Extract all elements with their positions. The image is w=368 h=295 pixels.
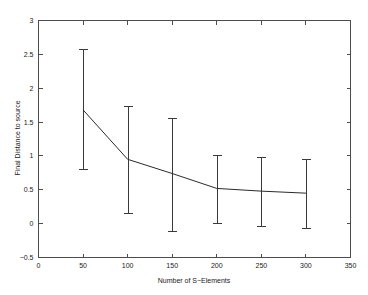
errorbar [257,157,266,226]
x-axis-title: Number of S−Elements [158,277,231,284]
x-axis-ticks [39,21,351,258]
y-axis-ticks [39,21,351,258]
errorbar [79,49,88,170]
x-tick-label: 0 [37,262,41,269]
x-tick-label: 250 [256,262,268,269]
chart-canvas: 050100150200250300350 −0.500.511.522.53 … [0,0,368,295]
y-tick-label: 2 [30,85,34,92]
y-tick-label: 0.5 [24,186,34,193]
x-tick-label: 50 [79,262,87,269]
y-axis-tick-labels: −0.500.511.522.53 [20,17,34,261]
y-tick-label: 3 [30,17,34,24]
x-tick-label: 200 [211,262,223,269]
y-tick-label: 1.5 [24,119,34,126]
figure-container: 050100150200250300350 −0.500.511.522.53 … [0,0,368,295]
y-tick-label: 1 [30,152,34,159]
y-tick-label: 2.5 [24,51,34,58]
errorbar-group [79,49,311,232]
data-series-line [83,110,306,193]
x-tick-label: 300 [300,262,312,269]
y-tick-label: −0.5 [20,254,34,261]
axes-box [39,21,351,258]
y-tick-label: 0 [30,220,34,227]
y-axis-title: Final Distance to source [14,100,21,175]
series-polyline [83,110,306,193]
x-tick-label: 150 [166,262,178,269]
x-tick-label: 100 [122,262,134,269]
x-tick-label: 350 [345,262,357,269]
axes-frame [39,21,351,258]
errorbar [302,159,311,228]
x-axis-tick-labels: 050100150200250300350 [37,262,357,269]
